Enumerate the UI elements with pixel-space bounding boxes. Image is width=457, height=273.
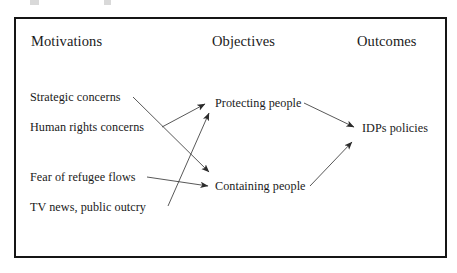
column-header-outcomes: Outcomes <box>357 34 417 49</box>
column-header-motivations: Motivations <box>31 34 102 49</box>
diagram-frame <box>14 17 447 258</box>
objective-item-containing-people: Containing people <box>215 180 306 192</box>
motivation-item-fear-of-refugee-flows: Fear of refugee flows <box>30 171 136 183</box>
objective-item-protecting-people: Protecting people <box>215 97 301 109</box>
figure-root: Motivations Objectives Outcomes Strategi… <box>0 0 457 273</box>
motivation-item-human-rights-concerns: Human rights concerns <box>30 121 144 133</box>
motivation-item-strategic-concerns: Strategic concerns <box>30 91 121 103</box>
outcome-item-idps-policies: IDPs policies <box>362 122 428 134</box>
caption-remnant-mark <box>104 0 111 5</box>
caption-remnant-mark <box>30 0 39 5</box>
column-header-objectives: Objectives <box>212 34 275 49</box>
motivation-item-tv-news-public-outcry: TV news, public outcry <box>30 201 146 213</box>
